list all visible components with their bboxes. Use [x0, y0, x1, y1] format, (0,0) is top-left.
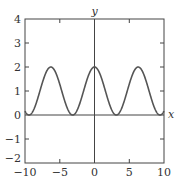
svg-text:10: 10: [157, 166, 171, 179]
svg-text:−1: −1: [5, 133, 21, 146]
svg-text:0: 0: [91, 166, 98, 179]
svg-text:4: 4: [14, 13, 21, 26]
y-axis-label: y: [90, 5, 98, 18]
x-tick-labels: −10 −5 0 5 10: [13, 166, 171, 179]
svg-text:−10: −10: [13, 166, 36, 179]
svg-text:3: 3: [14, 37, 21, 50]
svg-text:−2: −2: [5, 152, 21, 165]
svg-text:−5: −5: [52, 166, 68, 179]
x-axis-label: x: [168, 108, 175, 121]
svg-text:0: 0: [14, 109, 21, 122]
svg-text:5: 5: [126, 166, 133, 179]
chart: 4 3 2 1 0 −1 −2 −10 −5 0 5 10 y x: [0, 0, 182, 183]
svg-text:2: 2: [14, 61, 21, 74]
y-tick-labels: 4 3 2 1 0 −1 −2: [5, 13, 21, 165]
svg-text:1: 1: [14, 85, 21, 98]
